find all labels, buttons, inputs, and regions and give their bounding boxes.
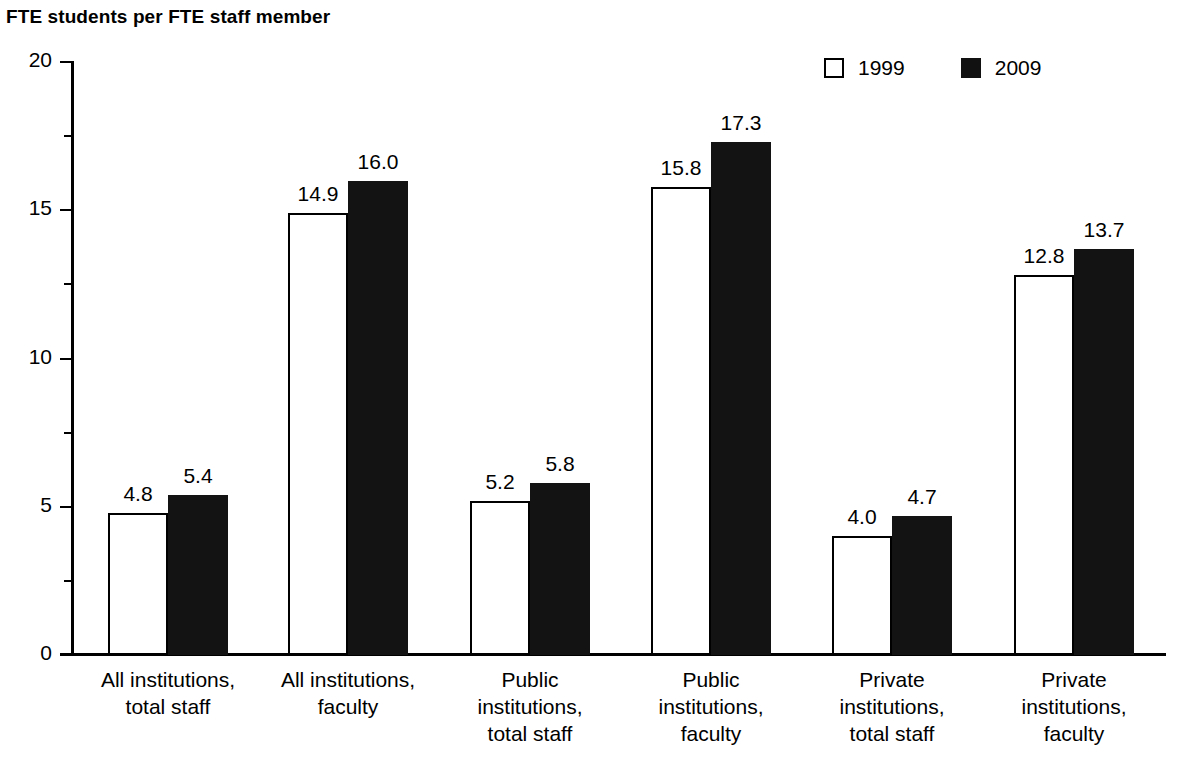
bar-2009-group5 bbox=[892, 516, 952, 655]
bar-2009-group2 bbox=[348, 181, 408, 655]
category-label-5: Private institutions, total staff bbox=[797, 666, 987, 747]
bar-1999-group6 bbox=[1014, 275, 1074, 655]
bar-value-label: 5.8 bbox=[516, 452, 604, 476]
bar-1999-group1 bbox=[108, 513, 168, 655]
y-tick-minor bbox=[64, 580, 74, 582]
bar-2009-group1 bbox=[168, 495, 228, 655]
y-tick-minor bbox=[64, 135, 74, 137]
category-label-2: All institutions, faculty bbox=[253, 666, 443, 720]
y-tick-minor bbox=[64, 432, 74, 434]
bar-value-label: 16.0 bbox=[334, 150, 422, 174]
bar-1999-group4 bbox=[651, 187, 711, 655]
y-tick-label: 0 bbox=[0, 641, 52, 665]
category-label-6: Private institutions, faculty bbox=[979, 666, 1169, 747]
bar-2009-group3 bbox=[530, 483, 590, 655]
y-tick-major bbox=[60, 506, 74, 508]
bar-value-label: 4.7 bbox=[878, 485, 966, 509]
bar-value-label: 5.4 bbox=[154, 464, 242, 488]
bar-value-label: 13.7 bbox=[1060, 218, 1148, 242]
category-label-1: All institutions, total staff bbox=[73, 666, 263, 720]
y-tick-label: 5 bbox=[0, 493, 52, 517]
bar-2009-group4 bbox=[711, 142, 771, 655]
category-label-3: Public institutions, total staff bbox=[435, 666, 625, 747]
bar-1999-group3 bbox=[470, 501, 530, 655]
category-label-4: Public institutions, faculty bbox=[616, 666, 806, 747]
y-tick-label: 20 bbox=[0, 48, 52, 72]
bar-chart: FTE students per FTE staff member 1999 2… bbox=[0, 0, 1201, 778]
y-tick-major bbox=[60, 358, 74, 360]
bar-value-label: 17.3 bbox=[697, 111, 785, 135]
y-tick-label: 10 bbox=[0, 345, 52, 369]
y-tick-minor bbox=[64, 283, 74, 285]
y-tick-major bbox=[60, 654, 74, 656]
y-tick-major bbox=[60, 61, 74, 63]
y-tick-major bbox=[60, 209, 74, 211]
bar-1999-group5 bbox=[832, 536, 892, 655]
bar-1999-group2 bbox=[288, 213, 348, 655]
y-tick-label: 15 bbox=[0, 196, 52, 220]
plot-area: 05101520 4.814.95.215.84.012.85.416.05.8… bbox=[0, 0, 1201, 778]
bar-2009-group6 bbox=[1074, 249, 1134, 655]
